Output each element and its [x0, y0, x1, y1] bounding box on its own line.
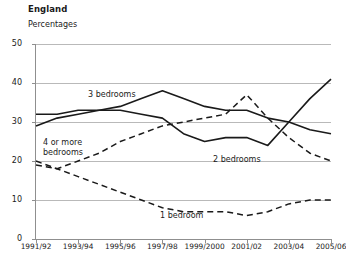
- y-tick-label: 0: [0, 234, 22, 243]
- series-label: 2 bedrooms: [213, 155, 261, 165]
- series-label: 3 bedrooms: [88, 90, 136, 100]
- x-tick-label: 1999/2000: [185, 242, 225, 251]
- x-tick-label: 2003/04: [273, 242, 304, 251]
- x-tick-label: 1997/98: [147, 242, 178, 251]
- x-tick-label: 2001/02: [231, 242, 262, 251]
- y-tick-label: 10: [0, 195, 22, 204]
- x-tick-label: 1995/96: [105, 242, 136, 251]
- series-line: [36, 91, 331, 134]
- series-line: [36, 161, 331, 216]
- y-tick-label: 30: [0, 117, 22, 126]
- y-tick-label: 40: [0, 78, 22, 87]
- y-tick-label: 20: [0, 156, 22, 165]
- x-tick-label: 2005/06: [316, 242, 346, 251]
- x-axis: [35, 239, 331, 240]
- page-title: England: [28, 4, 67, 14]
- x-tick-label: 1991/92: [21, 242, 52, 251]
- y-tick-label: 50: [0, 39, 22, 48]
- series-label: 4 or morebedrooms: [43, 138, 83, 158]
- series-label: 1 bedroom: [160, 211, 203, 221]
- x-tick-label: 1993/94: [63, 242, 94, 251]
- chart-subtitle: Percentages: [28, 20, 77, 29]
